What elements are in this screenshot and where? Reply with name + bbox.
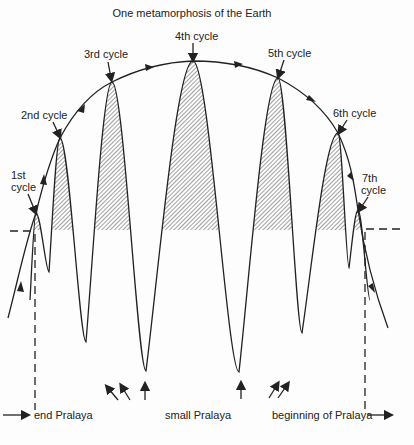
cycle-1-label-line2: cycle [11, 181, 36, 193]
arrow-up-left-1 [108, 388, 118, 400]
cycle-3-label: 3rd cycle [84, 48, 128, 60]
diagram-title: One metamorphosis of the Earth [113, 7, 272, 19]
cycle-2-label: 2nd cycle [21, 109, 67, 121]
arc-arrow-6 [306, 95, 316, 102]
cycle-5-pointer [279, 60, 284, 75]
cycle-7-pointer [360, 197, 368, 209]
metamorphosis-diagram: One metamorphosis of the Earth 1st cycle… [0, 0, 414, 445]
beginning-pralaya-label: beginning of Pralaya [272, 409, 373, 421]
diagram-canvas: One metamorphosis of the Earth 1st cycle… [0, 0, 414, 445]
arrow-up-left-2 [122, 387, 130, 400]
cycle-6-pointer [340, 120, 347, 131]
arc-arrow-4 [145, 64, 154, 71]
cycle-3-pointer [108, 62, 111, 78]
arc-arrow-1 [17, 281, 24, 292]
end-pralaya-label: end Pralaya [34, 409, 94, 421]
arc-arrow-5 [234, 61, 243, 68]
cycle-6-label: 6th cycle [333, 107, 376, 119]
cycle-7-label-line2: cycle [361, 184, 386, 196]
cycle-1-label: 1st [11, 169, 26, 181]
cycle-4-label: 4th cycle [175, 30, 218, 42]
arrow-up-right-2 [278, 385, 287, 398]
cycle-1-pointer [28, 194, 35, 211]
cycle-7-label: 7th [362, 172, 377, 184]
small-pralaya-label: small Pralaya [165, 409, 232, 421]
cycle-2-pointer [53, 122, 59, 135]
arrow-up-right-1 [269, 385, 277, 398]
small-pralaya-arrows [108, 385, 287, 400]
arc-arrow-3 [77, 104, 85, 113]
cycle-5-label: 5th cycle [268, 47, 311, 59]
